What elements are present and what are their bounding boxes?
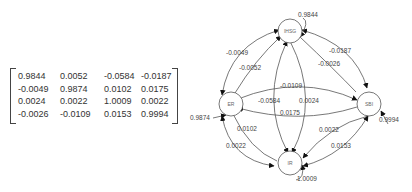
self-loop-label-top: 0.9844 (298, 11, 318, 18)
edge-left-bottom-outer (222, 116, 274, 166)
edge-label-top-bottom-right: 0.0024 (299, 97, 319, 104)
edge-label-left-right-upper: -0.0109 (280, 82, 302, 89)
node-label-ihsg: IHSG (284, 28, 296, 34)
node-label-er: ER (228, 101, 235, 107)
edge-top-right-outer (302, 30, 367, 88)
node-label-sbi: SBI (365, 101, 373, 107)
network-graph: IHSG ER SBI IR 0.9844 0.9874 0.9994 1.00… (0, 0, 412, 192)
edge-label-top-right-outer: -0.0187 (329, 47, 351, 54)
self-loop-left (213, 115, 226, 118)
edge-label-left-bottom-inner: 0.0102 (237, 125, 257, 132)
edge-left-top-outer (222, 30, 279, 95)
edge-left-bottom-inner (233, 114, 277, 161)
self-loop-label-right: 0.9994 (379, 116, 399, 123)
edge-label-right-bottom-inner: 0.0022 (319, 126, 339, 133)
edge-label-left-right-lower: 0.0175 (280, 109, 300, 116)
edge-label-top-right-inner: -0.0026 (318, 60, 340, 67)
edge-right-bottom-outer (303, 116, 368, 166)
edge-label-left-top-inner: -0.0052 (239, 64, 261, 71)
edge-label-left-top-outer: -0.0049 (226, 49, 248, 56)
edge-label-top-bottom-left: -0.0584 (258, 97, 280, 104)
node-label-ir: IR (288, 160, 293, 166)
self-loop-label-left: 0.9874 (190, 114, 210, 121)
edge-label-left-bottom-outer: 0.0022 (226, 142, 246, 149)
self-loop-label-bottom: 1.0009 (297, 175, 317, 182)
edge-label-right-bottom-outer: 0.0153 (331, 142, 351, 149)
